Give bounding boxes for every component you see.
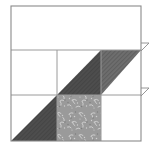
quilt-block-svg bbox=[0, 0, 161, 151]
patch-bottom-center-print-square bbox=[57, 95, 101, 141]
edge-marker-group bbox=[141, 43, 149, 96]
seam-marker-lower-icon bbox=[141, 88, 149, 96]
quilt-block-figure: Quilt Block Diagram plain white top band… bbox=[0, 0, 161, 151]
seam-marker-upper-icon bbox=[141, 43, 149, 51]
